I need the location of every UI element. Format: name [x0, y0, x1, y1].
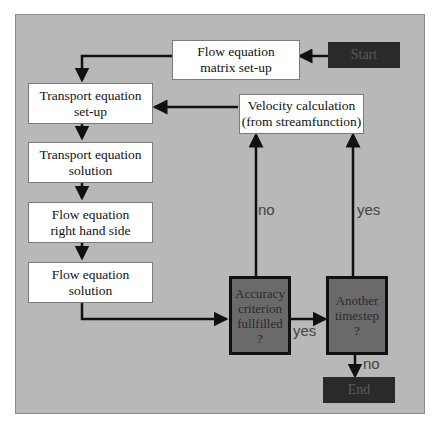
- node-label: Start: [351, 47, 377, 63]
- edge-label-another-yes: yes: [357, 201, 380, 218]
- node-label: Transport equation solution: [40, 147, 142, 179]
- transport-setup-node: Transport equation set-up: [28, 83, 153, 124]
- flow-matrix-setup-node: Flow equation matrix set-up: [172, 40, 300, 80]
- start-node: Start: [328, 42, 400, 68]
- node-label: Accuracy criterion fullfilled ?: [235, 286, 285, 346]
- edge-label-accuracy-yes: yes: [293, 322, 316, 339]
- node-label: Transport equation set-up: [40, 88, 142, 120]
- end-node: End: [323, 377, 395, 403]
- node-label: Flow equation solution: [52, 267, 130, 299]
- accuracy-decision-node: Accuracy criterion fullfilled ?: [229, 276, 291, 355]
- flow-rhs-node: Flow equation right hand side: [28, 202, 153, 243]
- edge-label-another-no: no: [363, 355, 380, 372]
- node-label: Velocity calculation (from streamfunctio…: [242, 98, 362, 130]
- velocity-calculation-node: Velocity calculation (from streamfunctio…: [239, 94, 364, 134]
- node-label: Flow equation right hand side: [50, 207, 130, 239]
- flow-solution-node: Flow equation solution: [28, 262, 153, 303]
- node-label: End: [348, 382, 371, 398]
- node-label: Flow equation matrix set-up: [197, 44, 275, 76]
- node-label: Another timestep ?: [335, 293, 379, 338]
- transport-solution-node: Transport equation solution: [28, 142, 153, 183]
- edge-label-accuracy-no: no: [258, 201, 275, 218]
- another-timestep-decision-node: Another timestep ?: [326, 276, 388, 355]
